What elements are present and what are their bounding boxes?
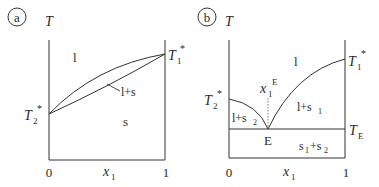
panel-b-region-l-s1: l+s: [297, 100, 312, 114]
phase-diagrams: a T l l+s s T 1 * T 2 * 0 x 1 1 b T: [0, 0, 379, 187]
panel-b-eutectic-point: E: [264, 133, 272, 148]
panel-a-y-axis-label: T: [45, 14, 54, 29]
panel-b-region-l-s2: l+s: [232, 111, 247, 125]
panel-a-x-axis-label: x: [102, 164, 110, 179]
panel-b-te-label: T: [349, 123, 358, 138]
panel-b-tag: b: [204, 10, 211, 25]
panel-a: a T l l+s s T 1 * T 2 * 0 x 1 1: [8, 8, 185, 182]
panel-a-tag: a: [14, 10, 20, 25]
panel-b-eutectic-comp-sup: E: [272, 77, 278, 87]
panel-a-t2-sub: 2: [33, 116, 38, 126]
panel-a-region-liquid: l: [73, 50, 77, 65]
panel-b-eutectic-comp-label: x: [259, 81, 267, 96]
panel-b-t1-label: T: [348, 54, 357, 69]
panel-b-t1-sub: 1: [357, 62, 362, 72]
panel-a-t2-sup: *: [37, 103, 42, 114]
panel-b-region-s1-sub: 1: [305, 146, 309, 155]
panel-b-region-l-s2-sub: 2: [253, 118, 257, 127]
panel-b-region-l-s1-sub: 1: [318, 107, 322, 116]
panel-b-x-axis-sub: 1: [291, 172, 296, 182]
panel-b-region-s2-sub: 2: [324, 146, 328, 155]
panel-b: b T x 1 E E l l+s 1 l+s 2 s 1 +s 2 T 1 *: [198, 8, 366, 182]
panel-a-t2-label: T: [24, 108, 33, 123]
panel-b-t2-label: T: [204, 93, 213, 108]
panel-b-x-tick-1: 1: [343, 165, 350, 180]
panel-b-t1-sup: *: [361, 48, 366, 59]
panel-b-te-sub: E: [358, 131, 364, 141]
panel-a-t1-sub: 1: [177, 56, 182, 66]
panel-b-t2-sup: *: [217, 88, 222, 99]
panel-a-t1-label: T: [168, 48, 177, 63]
panel-a-region-solid: s: [123, 114, 128, 129]
panel-b-x-tick-0: 0: [226, 165, 233, 180]
panel-a-t1-sup: *: [180, 43, 185, 54]
panel-b-right-liquidus: [268, 59, 345, 129]
panel-a-leader-line: [107, 84, 120, 91]
panel-a-region-two-phase: l+s: [121, 85, 136, 99]
panel-b-eutectic-comp-sub: 1: [268, 89, 273, 99]
panel-a-x-axis-sub: 1: [111, 172, 116, 182]
panel-b-region-s1-s2-plus: +s: [310, 139, 322, 153]
panel-b-y-axis-label: T: [225, 14, 234, 29]
panel-a-x-tick-1: 1: [163, 165, 170, 180]
panel-b-region-s1-s2: s: [299, 139, 304, 153]
panel-b-x-axis-label: x: [282, 164, 290, 179]
panel-b-region-liquid: l: [294, 54, 298, 69]
panel-a-x-tick-0: 0: [46, 165, 53, 180]
panel-b-t2-sub: 2: [213, 101, 218, 111]
